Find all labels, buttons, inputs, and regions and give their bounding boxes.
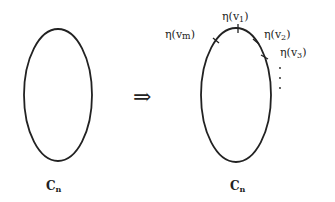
vertex-label-v3: η(v3)	[280, 46, 307, 60]
right-cycle-label: Cn	[230, 179, 246, 194]
vertex-label-v1: η(v1)	[222, 10, 249, 24]
vertex-label-vm: η(vm)	[165, 28, 195, 41]
left-cycle-ellipse	[24, 29, 92, 161]
ellipsis-dot	[279, 87, 281, 89]
ellipsis-dot	[279, 67, 281, 69]
right-cycle-ellipse	[201, 28, 271, 162]
ellipsis-dot	[279, 77, 281, 79]
diagram-canvas: Cn ⇒ η(v1) η(v2) η(v3) η(vm) Cn	[0, 0, 335, 202]
left-cycle-label: Cn	[46, 179, 62, 194]
implication-arrow: ⇒	[133, 84, 151, 109]
vertex-label-v2: η(v2)	[264, 28, 291, 42]
